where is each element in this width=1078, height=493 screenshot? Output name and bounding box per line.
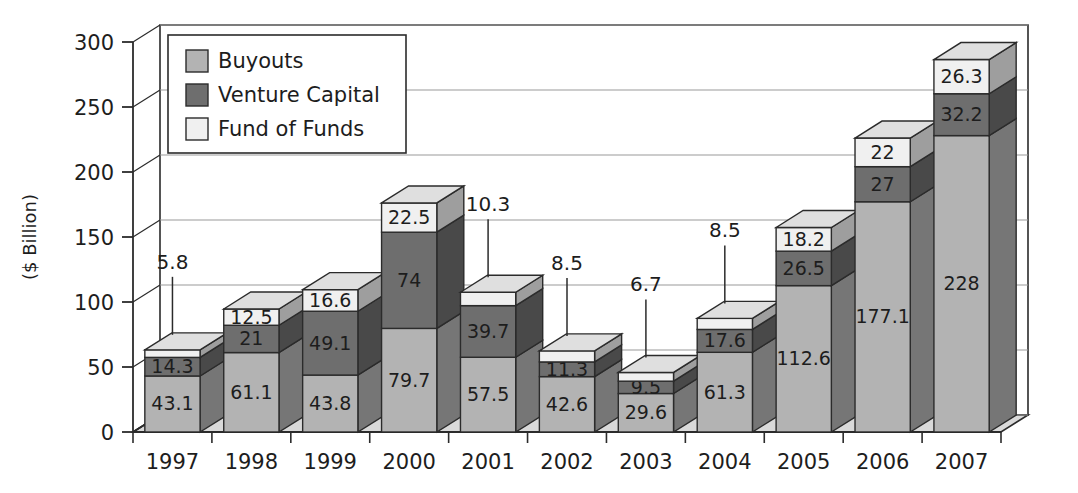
y-tick-label: 300 [74,31,114,55]
segment-front-face [460,292,515,305]
segment-buyouts[interactable]: 228 [934,119,1016,432]
segment-value-label: 112.6 [777,347,831,369]
segment-value-label: 61.3 [704,381,746,403]
segment-value-callout-label: 8.5 [709,218,741,242]
x-tick-label[interactable]: 1999 [304,450,357,474]
segment-value-label: 42.6 [546,393,588,415]
y-tick-label: 0 [101,421,114,445]
bar-2001[interactable]: 57.539.7 [460,275,542,432]
legend: BuyoutsVenture CapitalFund of Funds [168,35,406,153]
segment-side-face [437,311,464,432]
y-tick-label: 200 [74,161,114,185]
segment-value-callout-label: 6.7 [630,272,662,296]
segment-value-label: 228 [943,272,979,294]
x-tick-label[interactable]: 2004 [698,450,751,474]
bar-1999[interactable]: 43.849.116.6 [303,273,385,432]
segment-value-label: 79.7 [388,369,430,391]
segment-value-callout-label: 8.5 [551,251,583,275]
bar-2005[interactable]: 112.626.518.2 [776,211,858,432]
segment-value-label: 39.7 [467,320,509,342]
x-tick-label[interactable]: 2000 [382,450,435,474]
segment-value-label: 21 [239,327,263,349]
segment-value-label: 26.5 [783,257,825,279]
x-tick-label[interactable]: 2007 [935,450,988,474]
legend-item-buyouts[interactable]: Buyouts [186,49,303,73]
y-tick-label: 250 [74,96,114,120]
chart-canvas: 050100150200250300($ Billion)43.114.361.… [0,0,1078,493]
legend-label: Fund of Funds [218,117,364,141]
segment-front-face [539,351,594,362]
segment-value-label: 22 [871,141,895,163]
segment-value-label: 17.6 [704,329,746,351]
gridline-depth-connector [133,90,160,107]
segment-side-face [989,119,1016,432]
segment-value-callout-label: 10.3 [466,192,511,216]
segment-value-label: 14.3 [151,355,193,377]
y-tick-label: 150 [74,226,114,250]
segment-value-callout-label: 5.8 [157,250,189,274]
segment-side-face [437,215,464,328]
bar-1997[interactable]: 43.114.3 [145,333,227,432]
legend-label: Buyouts [218,49,303,73]
x-tick-label[interactable]: 2002 [540,450,593,474]
segment-value-label: 32.2 [940,103,982,125]
segment-value-label: 12.5 [230,306,272,328]
segment-front-face [618,372,673,381]
segment-value-label: 43.8 [309,392,351,414]
x-tick-label[interactable]: 2006 [856,450,909,474]
x-axis: 1997199819992000200120022003200420052006… [133,432,1001,474]
segment-value-label: 16.6 [309,289,351,311]
segment-front-face [697,318,752,329]
segment-buyouts[interactable]: 177.1 [855,185,937,432]
segment-side-face [910,185,937,432]
segment-value-label: 177.1 [855,305,909,327]
segment-front-face [145,350,200,358]
segment-buyouts[interactable]: 79.7 [382,311,464,432]
legend-swatch [186,84,208,106]
bar-2006[interactable]: 177.12722 [855,121,937,432]
legend-swatch [186,118,208,140]
segment-value-label: 26.3 [940,65,982,87]
segment-value-label: 43.1 [151,392,193,414]
legend-swatch [186,50,208,72]
segment-value-label: 49.1 [309,332,351,354]
y-tick-label: 100 [74,291,114,315]
y-axis-title: ($ Billion) [19,194,40,280]
segment-value-label: 29.6 [625,401,667,423]
bar-2003[interactable]: 29.69.5 [618,355,700,432]
gridline-depth-connector [133,220,160,237]
gridline-depth-connector [133,25,160,42]
bar-2000[interactable]: 79.77422.5 [382,186,464,432]
private-equity-fundraising-chart: 050100150200250300($ Billion)43.114.361.… [0,0,1078,493]
x-tick-label[interactable]: 1997 [146,450,199,474]
x-tick-label[interactable]: 2005 [777,450,830,474]
segment-value-label: 18.2 [783,228,825,250]
gridline-depth-connector [133,285,160,302]
segment-value-label: 61.1 [230,381,272,403]
x-tick-label[interactable]: 2001 [461,450,514,474]
x-tick-label[interactable]: 1998 [225,450,278,474]
legend-label: Venture Capital [218,83,380,107]
bar-2004[interactable]: 61.317.6 [697,301,779,432]
bar-2007[interactable]: 22832.226.3 [934,43,1016,432]
y-tick-label: 50 [87,356,114,380]
segment-buyouts[interactable]: 112.6 [776,269,858,432]
gridline-depth-connector [133,155,160,172]
bar-2002[interactable]: 42.611.3 [539,334,621,432]
segment-value-label: 57.5 [467,383,509,405]
segment-value-label: 27 [871,173,895,195]
segment-value-label: 74 [397,269,421,291]
bar-1998[interactable]: 61.12112.5 [224,292,306,432]
segment-side-face [831,269,858,432]
x-tick-label[interactable]: 2003 [619,450,672,474]
segment-value-label: 22.5 [388,206,430,228]
